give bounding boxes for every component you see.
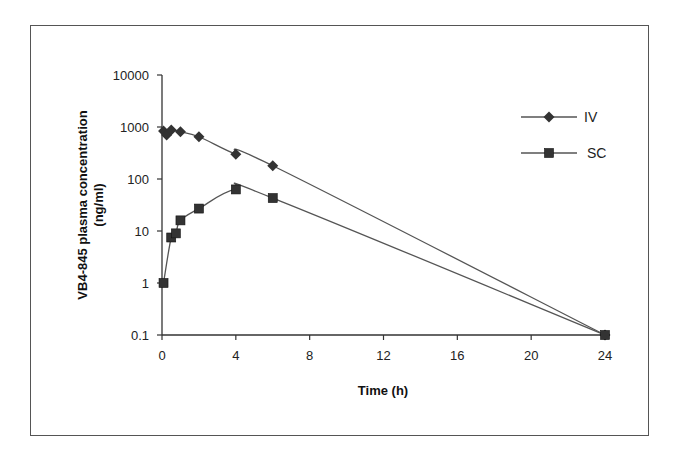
y-tick-label: 1000 — [120, 120, 149, 135]
diamond-marker-icon — [267, 160, 278, 171]
series-sc — [159, 183, 609, 339]
x-tick-label: 0 — [158, 348, 165, 363]
square-marker-icon — [176, 216, 185, 225]
y-axis-units: (ng/ml) — [91, 183, 106, 226]
y-tick-label: 100 — [127, 172, 149, 187]
legend-item-iv: IV — [521, 109, 598, 125]
chart-canvas: 0.111010010001000004812162024 IVSC Time … — [0, 0, 676, 456]
x-tick-label: 24 — [598, 348, 612, 363]
series-line — [164, 183, 605, 335]
legend-label: IV — [584, 109, 598, 125]
y-tick-label: 1 — [142, 276, 149, 291]
series-iv — [158, 124, 610, 340]
x-tick-label: 20 — [524, 348, 538, 363]
square-marker-icon — [545, 149, 554, 158]
square-marker-icon — [194, 204, 203, 213]
square-marker-icon — [171, 229, 180, 238]
series-layer — [158, 124, 610, 340]
x-tick-label: 16 — [450, 348, 464, 363]
square-marker-icon — [268, 194, 277, 203]
y-axis-title: VB4-845 plasma concentration — [75, 110, 90, 299]
square-marker-icon — [231, 185, 240, 194]
x-axis-title: Time (h) — [358, 383, 408, 398]
x-tick-label: 8 — [306, 348, 313, 363]
x-tick-label: 4 — [232, 348, 239, 363]
y-tick-label: 10 — [135, 224, 149, 239]
legend-label: SC — [587, 145, 606, 161]
axis-titles: Time (h) VB4-845 plasma concentration (n… — [75, 110, 408, 398]
series-line — [164, 130, 605, 335]
y-tick-label: 0.1 — [131, 328, 149, 343]
diamond-marker-icon — [175, 126, 186, 137]
x-tick-label: 12 — [376, 348, 390, 363]
y-tick-label: 10000 — [113, 68, 149, 83]
legend: IVSC — [521, 109, 606, 161]
square-marker-icon — [159, 279, 168, 288]
diamond-marker-icon — [544, 112, 555, 123]
legend-item-sc: SC — [521, 145, 606, 161]
square-marker-icon — [601, 331, 610, 340]
diamond-marker-icon — [193, 131, 204, 142]
